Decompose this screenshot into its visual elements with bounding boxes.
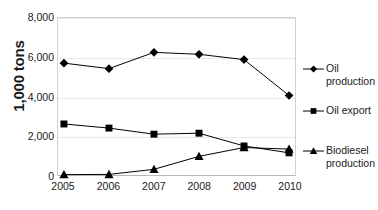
x-axis-tick-labels: 200520062007200820092010 bbox=[57, 180, 296, 200]
y-axis-tick-label: 4,000 bbox=[10, 92, 54, 102]
series-layer bbox=[58, 18, 295, 175]
data-point-marker bbox=[105, 64, 114, 73]
legend-entry[interactable]: Oil export bbox=[303, 104, 378, 117]
line-chart: 1,000 tons 02,0004,0006,0008,000 2005200… bbox=[0, 0, 378, 210]
legend-label: Biodieselproduction bbox=[324, 144, 375, 169]
x-axis-tick-label: 2008 bbox=[176, 180, 222, 192]
y-axis-tick-labels: 02,0004,0006,0008,000 bbox=[8, 0, 54, 210]
data-point-marker bbox=[105, 125, 112, 132]
x-axis-tick-label: 2007 bbox=[131, 180, 177, 192]
legend-label: Oilproduction bbox=[324, 62, 375, 87]
data-point-marker bbox=[60, 121, 67, 128]
square-marker-icon bbox=[303, 105, 324, 117]
legend-label: Oil export bbox=[324, 104, 371, 117]
chart-legend: OilproductionOil exportBiodieselproducti… bbox=[303, 17, 378, 176]
data-point-marker bbox=[60, 59, 69, 68]
diamond-marker-icon bbox=[303, 63, 324, 75]
legend-entry[interactable]: Oilproduction bbox=[303, 62, 378, 87]
data-point-marker bbox=[151, 131, 158, 138]
data-point-marker bbox=[196, 130, 203, 137]
series-line bbox=[64, 52, 289, 95]
x-axis-tick-label: 2006 bbox=[85, 180, 131, 192]
series-line bbox=[64, 124, 289, 153]
plot-area bbox=[57, 17, 296, 176]
legend-entry[interactable]: Biodieselproduction bbox=[303, 144, 378, 169]
triangle-marker-icon bbox=[303, 145, 324, 157]
data-point-marker bbox=[150, 48, 159, 57]
x-axis-tick-label: 2010 bbox=[267, 180, 313, 192]
x-axis-tick-label: 2009 bbox=[222, 180, 268, 192]
data-point-marker bbox=[195, 50, 204, 59]
y-axis-tick-label: 2,000 bbox=[10, 131, 54, 141]
y-axis-tick-label: 6,000 bbox=[10, 52, 54, 62]
y-axis-tick-label: 8,000 bbox=[10, 12, 54, 22]
series-line bbox=[64, 148, 289, 175]
x-axis-tick-label: 2005 bbox=[40, 180, 86, 192]
